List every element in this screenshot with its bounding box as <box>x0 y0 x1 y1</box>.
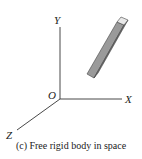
x-axis-label: X <box>125 94 132 105</box>
y-axis-label: Y <box>54 15 60 26</box>
figure-caption: (c) Free rigid body in space <box>0 140 142 151</box>
rigid-body <box>87 17 128 78</box>
coordinate-diagram <box>0 0 142 159</box>
z-axis <box>17 99 60 130</box>
rigid-body-front-face <box>87 22 124 78</box>
rigid-body-side-face <box>94 20 128 78</box>
origin-label: O <box>48 90 56 101</box>
